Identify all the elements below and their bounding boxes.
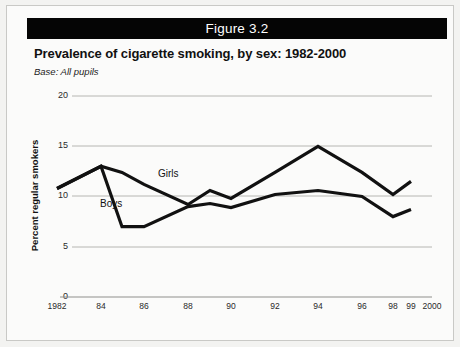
chart-plot-area: Percent regular smokers 20 15 10 5 0 198… xyxy=(0,0,460,347)
line-chart-svg xyxy=(0,0,460,347)
figure-page: Figure 3.2 Prevalence of cigarette smoki… xyxy=(0,0,460,347)
gridlines xyxy=(60,96,432,297)
